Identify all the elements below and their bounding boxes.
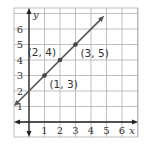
grid-lines bbox=[14, 8, 138, 137]
y-tick-label: 5 bbox=[17, 39, 23, 50]
x-tick-label: 5 bbox=[103, 125, 109, 136]
grid-border bbox=[14, 8, 138, 137]
point-label: (1, 3) bbox=[50, 78, 78, 90]
y-axis-arrow-down-icon bbox=[27, 131, 32, 137]
point-label: (3, 5) bbox=[81, 47, 109, 59]
y-tick-label: 2 bbox=[17, 86, 23, 97]
y-tick-label: 3 bbox=[17, 70, 23, 81]
data-point bbox=[73, 42, 78, 47]
x-axis-label: x bbox=[129, 125, 135, 136]
x-axis-arrow-left-icon bbox=[14, 120, 20, 125]
y-tick-label: 6 bbox=[17, 24, 23, 35]
data-point bbox=[42, 73, 47, 78]
y-tick-label: 4 bbox=[17, 55, 23, 66]
data-point bbox=[58, 58, 63, 63]
y-axis-arrow-up-icon bbox=[27, 8, 32, 14]
x-tick-label: 4 bbox=[88, 125, 94, 136]
coordinate-graph: 123456123456xy (1, 3)(2, 4)(3, 5) bbox=[0, 0, 145, 144]
x-tick-label: 1 bbox=[41, 125, 47, 136]
point-label: (2, 4) bbox=[28, 46, 56, 58]
plotted-points: (1, 3)(2, 4)(3, 5) bbox=[28, 42, 109, 89]
axes bbox=[14, 8, 138, 137]
x-tick-label: 3 bbox=[72, 125, 78, 136]
tick-labels: 123456123456xy bbox=[17, 9, 136, 136]
y-axis-label: y bbox=[32, 9, 39, 20]
x-tick-label: 6 bbox=[119, 125, 125, 136]
x-tick-label: 2 bbox=[57, 125, 63, 136]
